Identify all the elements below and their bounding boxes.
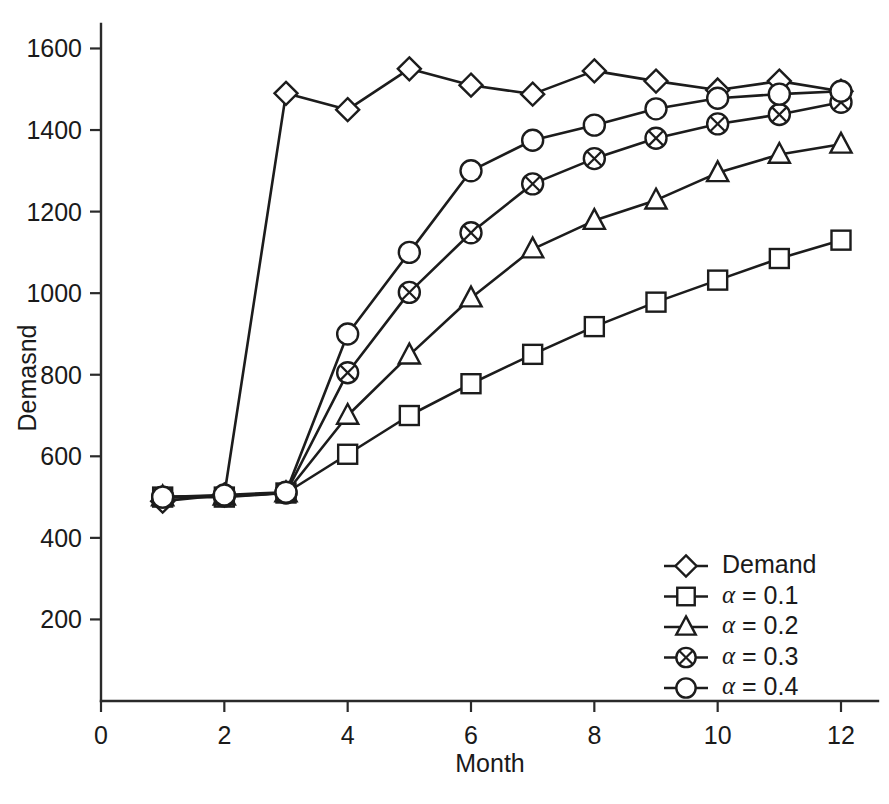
marker-diamond [675, 555, 696, 576]
x-axis-ticks: 024681012 [94, 701, 855, 749]
circle-marker-icon [707, 88, 728, 109]
marker-circle-x [399, 282, 420, 303]
circle-marker-icon [769, 84, 790, 105]
legend-item-label: α = 0.4 [722, 672, 798, 700]
legend-item-1[interactable]: Demand [664, 550, 817, 578]
y-tick-label: 400 [40, 524, 82, 552]
triangle-marker-icon [676, 616, 695, 634]
legend-item-2[interactable]: α = 0.1 [664, 580, 798, 608]
square-marker-icon [677, 588, 694, 605]
marker-circle-x [646, 128, 667, 149]
marker-square [770, 249, 789, 268]
marker-circle-x [584, 148, 605, 169]
series-line-path [163, 69, 841, 501]
y-tick-label: 1600 [26, 34, 82, 62]
y-tick-label: 1400 [26, 116, 82, 144]
x-tick-label: 2 [217, 721, 231, 749]
circle-marker-icon [214, 485, 235, 506]
marker-circle [522, 130, 543, 151]
diamond-marker-icon [336, 98, 359, 121]
marker-square [708, 271, 727, 290]
square-marker-icon [770, 249, 789, 268]
x-tick-label: 6 [464, 721, 478, 749]
chart-figure: 2004006008001000120014001600 024681012 D… [0, 0, 889, 804]
marker-square [400, 406, 419, 425]
square-marker-icon [462, 374, 481, 393]
x-tick-label: 10 [704, 721, 732, 749]
circle-marker-icon [461, 160, 482, 181]
series-line-path [163, 102, 841, 497]
marker-circle-x [522, 173, 543, 194]
series-line-path [163, 91, 841, 497]
x-axis-title: Month [455, 749, 524, 777]
x-tick-label: 8 [587, 721, 601, 749]
marker-diamond [583, 59, 606, 82]
series-1 [151, 57, 852, 512]
marker-diamond [645, 70, 668, 93]
marker-circle [831, 81, 852, 102]
circle-marker-icon [337, 323, 358, 344]
diamond-marker-icon [460, 74, 483, 97]
line-chart-canvas: 2004006008001000120014001600 024681012 D… [0, 0, 889, 804]
series-3 [152, 133, 851, 506]
legend-item-label: α = 0.2 [722, 611, 798, 639]
marker-circle [337, 323, 358, 344]
legend-item-label: Demand [722, 550, 817, 578]
circle-marker-icon [522, 130, 543, 151]
legend-item-3[interactable]: α = 0.2 [664, 611, 798, 639]
marker-circle-x [461, 222, 482, 243]
chart-legend: Demandα = 0.1α = 0.2α = 0.3α = 0.4 [664, 550, 817, 700]
square-marker-icon [647, 293, 666, 312]
marker-triangle [645, 189, 666, 209]
y-tick-label: 1000 [26, 279, 82, 307]
marker-circle [707, 88, 728, 109]
marker-triangle [460, 287, 481, 307]
y-tick-label: 600 [40, 442, 82, 470]
circle-marker-icon [676, 678, 695, 697]
diamond-marker-icon [583, 59, 606, 82]
marker-circle-x [676, 648, 695, 667]
marker-diamond [336, 98, 359, 121]
series-line-path [163, 240, 841, 497]
diamond-marker-icon [521, 83, 544, 106]
marker-square [462, 374, 481, 393]
circle-marker-icon [276, 482, 297, 503]
square-marker-icon [338, 445, 357, 464]
square-marker-icon [585, 317, 604, 336]
triangle-marker-icon [460, 287, 481, 307]
legend-item-5[interactable]: α = 0.4 [664, 672, 798, 700]
marker-square [523, 345, 542, 364]
marker-diamond [460, 74, 483, 97]
series-line-path [163, 144, 841, 497]
marker-circle [769, 84, 790, 105]
legend-item-4[interactable]: α = 0.3 [664, 641, 798, 669]
legend-item-label: α = 0.1 [722, 580, 798, 608]
marker-circle [152, 487, 173, 508]
data-series-layer [151, 57, 852, 512]
marker-square [585, 317, 604, 336]
x-tick-label: 12 [827, 721, 855, 749]
marker-circle [461, 160, 482, 181]
square-marker-icon [708, 271, 727, 290]
y-tick-label: 1200 [26, 198, 82, 226]
marker-square [338, 445, 357, 464]
marker-circle [276, 482, 297, 503]
marker-circle-x [769, 104, 790, 125]
circle-marker-icon [399, 242, 420, 263]
marker-square [832, 231, 851, 250]
square-marker-icon [832, 231, 851, 250]
marker-circle [584, 115, 605, 136]
circle-marker-icon [152, 487, 173, 508]
square-marker-icon [523, 345, 542, 364]
marker-square [677, 588, 694, 605]
square-marker-icon [400, 406, 419, 425]
x-tick-label: 0 [94, 721, 108, 749]
y-tick-label: 200 [40, 605, 82, 633]
marker-circle [676, 678, 695, 697]
diamond-marker-icon [645, 70, 668, 93]
y-axis-title: Demasnd [13, 325, 41, 432]
circle-marker-icon [646, 98, 667, 119]
marker-triangle [522, 238, 543, 258]
marker-circle [214, 485, 235, 506]
marker-triangle [830, 133, 851, 153]
